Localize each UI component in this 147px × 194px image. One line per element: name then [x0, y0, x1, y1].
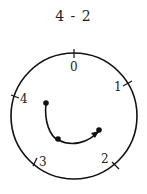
label-1: 1: [114, 80, 122, 94]
label-3: 3: [39, 155, 47, 169]
start-dot: [43, 100, 49, 106]
label-0: 0: [70, 60, 78, 74]
mid-dot: [55, 136, 61, 142]
clock-diagram: 0 1 2 3 4: [0, 0, 147, 194]
label-2: 2: [101, 152, 109, 166]
label-4: 4: [20, 92, 28, 106]
end-dot: [96, 127, 102, 133]
subtraction-path: [46, 103, 99, 143]
